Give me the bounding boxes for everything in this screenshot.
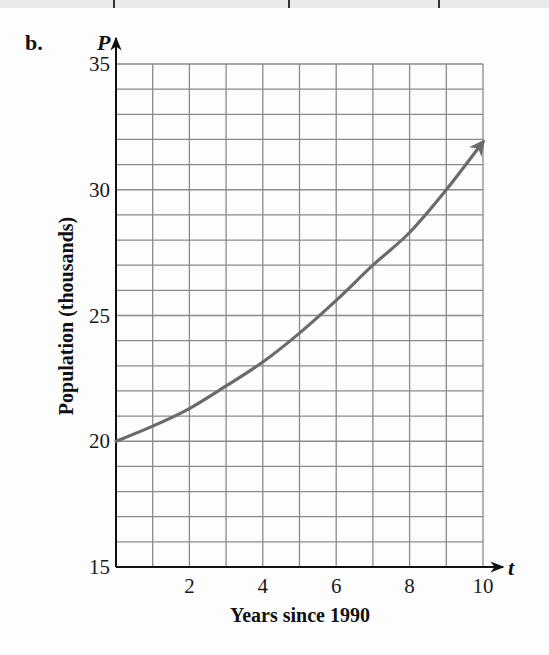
grid	[116, 64, 483, 567]
y-tick-label: 30	[89, 178, 110, 202]
x-tick-label: 6	[331, 574, 342, 598]
x-tick-label: 10	[473, 574, 494, 598]
population-chart: 1520253035246810 Years since 1990 Popula…	[0, 0, 549, 655]
x-axis-title: Years since 1990	[230, 604, 370, 626]
axes	[116, 38, 503, 567]
y-tick-label: 15	[89, 555, 110, 579]
x-tick-label: 4	[258, 574, 269, 598]
y-axis-variable: P	[96, 30, 111, 55]
x-tick-label: 8	[404, 574, 415, 598]
y-tick-label: 25	[89, 304, 110, 328]
y-tick-label: 35	[89, 52, 110, 76]
y-axis-title: Population (thousands)	[55, 217, 78, 415]
x-tick-label: 2	[184, 574, 195, 598]
x-axis-variable: t	[508, 555, 515, 580]
y-tick-label: 20	[89, 429, 110, 453]
